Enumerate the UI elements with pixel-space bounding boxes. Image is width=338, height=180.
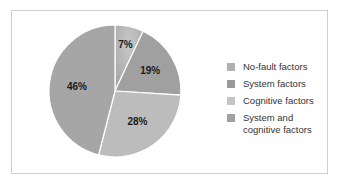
legend-swatch (227, 80, 235, 88)
legend-label: System and cognitive factors (243, 112, 328, 136)
legend-item-system: System factors (227, 78, 328, 90)
slice-label: 19% (140, 65, 160, 76)
legend-swatch (227, 114, 235, 122)
legend-item-system-cognitive: System and cognitive factors (227, 112, 328, 136)
legend-swatch (227, 63, 235, 71)
slice-label: 46% (67, 81, 87, 92)
legend-label: System factors (243, 78, 328, 90)
legend: No-fault factors System factors Cognitiv… (227, 61, 328, 141)
legend-swatch (227, 97, 235, 105)
slice-label: 7% (118, 39, 133, 50)
slice-label: 28% (127, 116, 147, 127)
legend-item-cognitive: Cognitive factors (227, 95, 328, 107)
legend-label: No-fault factors (243, 61, 328, 73)
legend-label: Cognitive factors (243, 95, 328, 107)
legend-item-no-fault: No-fault factors (227, 61, 328, 73)
